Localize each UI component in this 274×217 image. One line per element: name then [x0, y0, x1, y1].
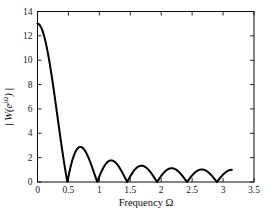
y-tick-label: 2	[28, 153, 33, 163]
x-tick-label: 2	[159, 185, 164, 195]
figure: 00.511.522.533.502468101214 Frequency Ω …	[0, 0, 274, 217]
x-tick-label: 0.5	[62, 185, 74, 195]
x-tick-label: 3	[221, 185, 226, 195]
y-axis-label-suffix: ) |	[3, 88, 14, 97]
y-tick-label: 10	[23, 55, 33, 65]
y-tick-label: 8	[28, 80, 33, 90]
y-tick-label: 4	[28, 128, 33, 138]
x-tick-label: 2.5	[186, 185, 198, 195]
x-axis-label: Frequency Ω	[37, 197, 255, 208]
y-tick-label: 12	[23, 31, 33, 41]
y-tick-label: 14	[23, 7, 33, 17]
y-axis-label-prefix: | W(e	[3, 104, 14, 126]
x-tick-label: 1	[97, 185, 102, 195]
magnitude-curve	[38, 24, 232, 182]
y-tick-label: 0	[28, 177, 33, 187]
y-tick-label: 6	[28, 104, 33, 114]
chart-canvas: 00.511.522.533.502468101214	[0, 0, 274, 217]
y-axis-label-superscript: jΩ	[2, 97, 10, 104]
x-tick-label: 1.5	[124, 185, 136, 195]
plot-frame	[38, 12, 255, 183]
x-tick-label: 3.5	[248, 185, 260, 195]
x-tick-label: 0	[35, 185, 40, 195]
y-axis-label: | W(ejΩ) |	[3, 47, 17, 167]
